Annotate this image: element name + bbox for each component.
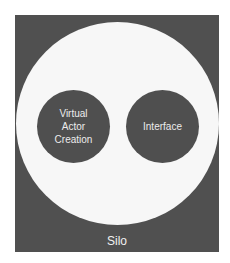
virtual-actor-creation-node: Virtual Actor Creation [37, 90, 110, 163]
silo-container: Virtual Actor Creation Interface Silo [15, 15, 219, 252]
interface-node: Interface [126, 90, 199, 163]
silo-label: Silo [15, 234, 219, 248]
